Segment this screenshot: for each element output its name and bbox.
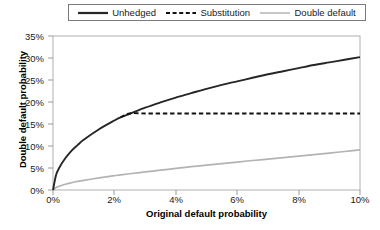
chart-figure: Unhedged Substitution Double default Dou…	[0, 0, 380, 230]
y-tick-marks	[48, 36, 53, 190]
series-line-double-default	[53, 150, 360, 190]
x-tick-marks	[53, 190, 360, 195]
series-line-substitution	[121, 113, 360, 117]
plot-area	[0, 0, 380, 230]
series-line-unhedged	[53, 57, 360, 190]
